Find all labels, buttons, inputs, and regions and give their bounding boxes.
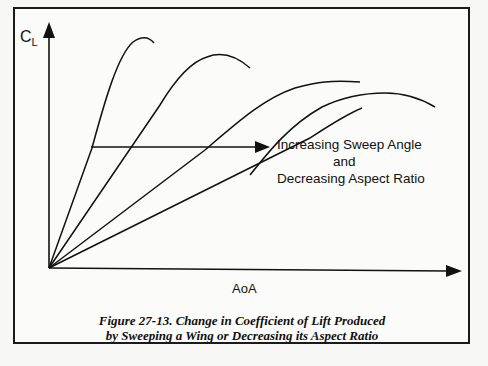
annotation-line-3: Decreasing Aspect Ratio (277, 170, 477, 187)
lift-curve-3-upper (310, 108, 362, 138)
trend-annotation: Increasing Sweep Angle and Decreasing As… (277, 136, 477, 187)
x-axis-arrow-icon (446, 265, 462, 277)
x-axis (49, 268, 448, 271)
x-axis-label: AoA (232, 281, 257, 296)
lift-curve-2 (49, 55, 250, 268)
annotation-line-2: and (277, 153, 477, 170)
y-axis-arrow-icon (43, 22, 55, 38)
caption-line-2: by Sweeping a Wing or Decreasing its Asp… (14, 328, 470, 343)
y-axis-label: CL (20, 28, 38, 48)
caption-line-1: Figure 27-13. Change in Coefficient of L… (14, 313, 470, 328)
figure-caption: Figure 27-13. Change in Coefficient of L… (14, 313, 470, 343)
annotation-line-1: Increasing Sweep Angle (277, 136, 477, 153)
lift-curve-1 (49, 38, 154, 268)
